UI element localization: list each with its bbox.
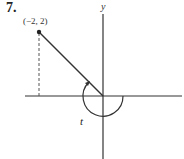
coordinate-diagram <box>0 0 184 159</box>
terminal-side <box>39 32 103 96</box>
point-marker <box>37 30 41 34</box>
